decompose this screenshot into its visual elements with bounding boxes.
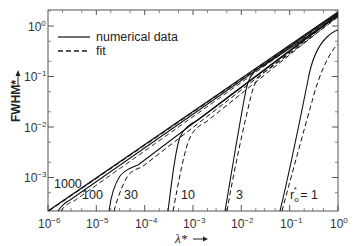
- x-tick-labels: 10−6 10−5 10−4 10−3 10−2 10−1 100: [38, 216, 348, 231]
- y-major-ticks: [48, 26, 338, 178]
- curve-r30-fit: [114, 15, 338, 211]
- y-tick-label: 10−2: [24, 120, 47, 135]
- curve-label-100: 100: [82, 188, 103, 202]
- legend-label-numerical: numerical data: [96, 30, 178, 44]
- legend: numerical data fit: [58, 30, 178, 58]
- y-axis-title: FWHM*: [9, 80, 23, 122]
- curve-r1-numerical: [280, 30, 338, 211]
- x-tick-label: 10−4: [135, 216, 158, 231]
- curve-label-10: 10: [181, 188, 195, 202]
- y-axis-title-text: FWHM*: [9, 80, 23, 122]
- curves: [48, 12, 338, 211]
- y-tick-labels: 100 10−1 10−2 10−3: [24, 19, 47, 185]
- curve-r10-numerical: [168, 15, 338, 211]
- curve-label-1000: 1000: [54, 177, 82, 191]
- y-minor-ticks: [48, 11, 338, 193]
- curve-labels: 1000 100 30 10 3 ro* = 1: [54, 177, 318, 204]
- y-tick-label: 100: [28, 19, 46, 34]
- y-tick-label: 10−1: [24, 69, 47, 84]
- x-tick-label: 10−6: [38, 216, 61, 231]
- y-tick-label: 10−3: [24, 170, 47, 185]
- curve-r1000-numerical: [48, 12, 338, 211]
- curve-label-3: 3: [236, 188, 243, 202]
- fwhm-vs-lambda-chart: 10−6 10−5 10−4 10−3 10−2 10−1 100 100 10…: [0, 0, 360, 246]
- curve-label-r1: ro* = 1: [290, 185, 318, 204]
- curve-r3-fit: [227, 17, 338, 211]
- x-axis-title: λ*: [174, 231, 188, 246]
- curve-label-30: 30: [124, 188, 138, 202]
- x-tick-label: 10−5: [86, 216, 109, 231]
- x-tick-label: 10−2: [231, 216, 254, 231]
- x-tick-label: 10−1: [280, 216, 303, 231]
- x-axis-arrow-icon: [193, 237, 208, 242]
- x-tick-label: 10−3: [183, 216, 206, 231]
- x-tick-label: 100: [330, 216, 348, 231]
- legend-label-fit: fit: [96, 44, 106, 58]
- curve-r3-numerical: [225, 16, 338, 211]
